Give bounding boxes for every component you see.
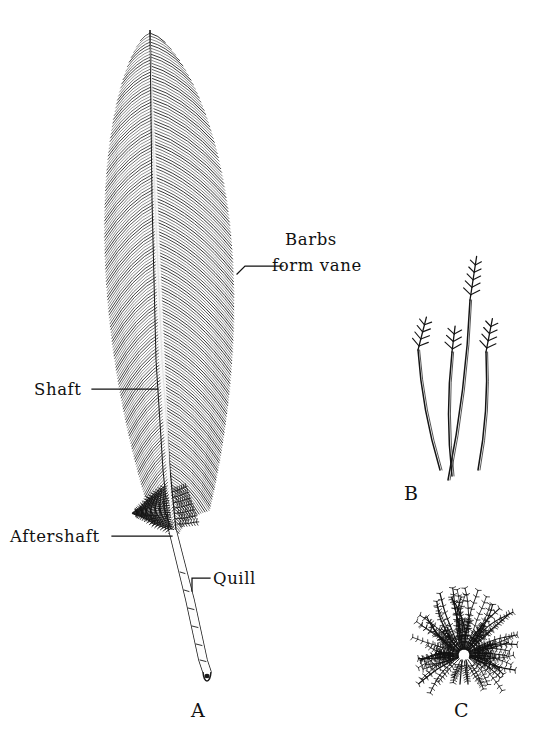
label-shaft: Shaft xyxy=(34,380,82,399)
label-form-vane: form vane xyxy=(272,256,362,275)
label-quill: Quill xyxy=(213,569,256,588)
label-barbs: Barbs xyxy=(285,230,337,249)
label-aftershaft: Aftershaft xyxy=(9,527,100,546)
panel-letter-a: A xyxy=(190,699,205,721)
feather-diagram-plate: Barbs form vane Shaft Aftershaft Quill A… xyxy=(0,0,552,737)
illustration-canvas: Barbs form vane Shaft Aftershaft Quill A… xyxy=(0,0,552,737)
panel-letter-c: C xyxy=(454,699,469,721)
inferior-umbilicus xyxy=(204,674,209,678)
panel-letter-b: B xyxy=(404,482,418,504)
